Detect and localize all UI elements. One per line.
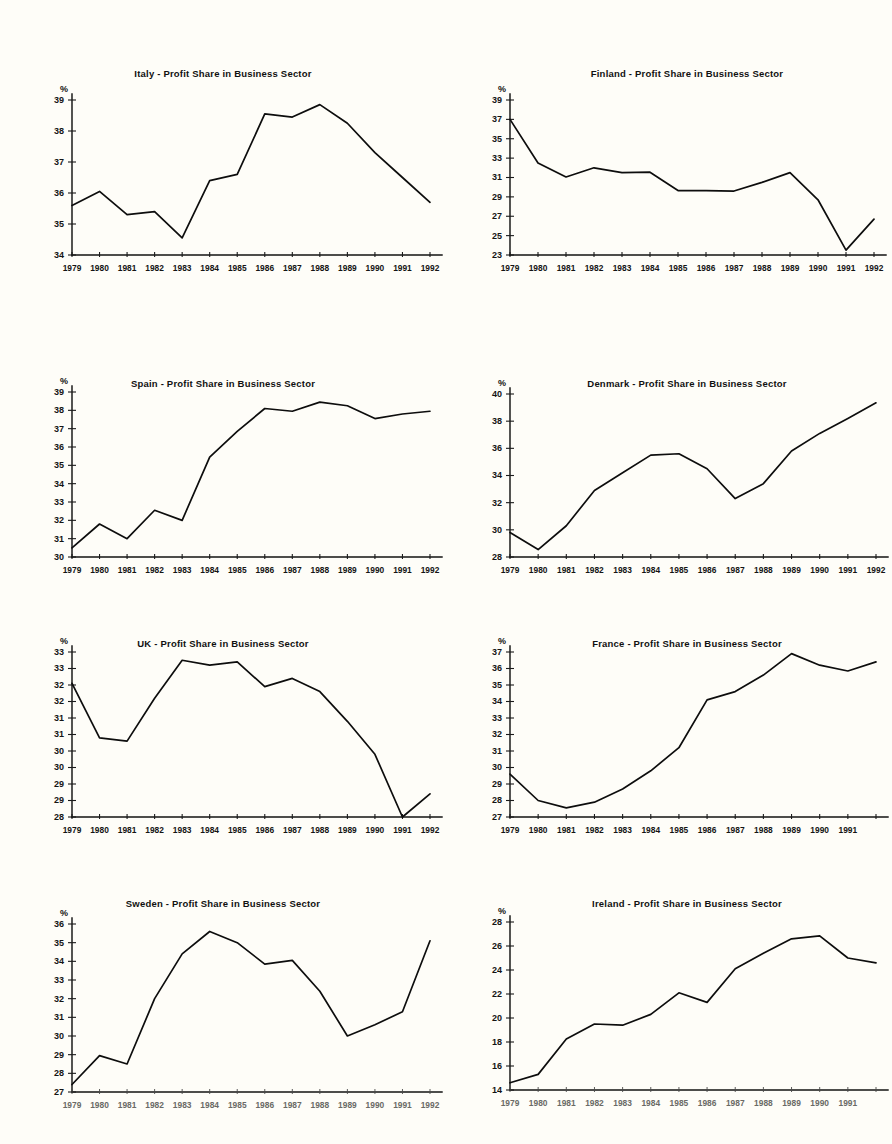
- plot-area-italy: 3435363738391979198019811982198319841985…: [0, 52, 458, 295]
- x-tick-label-ireland-7: 1986: [698, 1098, 717, 1108]
- x-tick-label-france-6: 1985: [670, 825, 689, 835]
- chart-panel-sweden: Sweden - Profit Share in Business Sector…: [0, 882, 446, 1144]
- y-tick-label-uk-2: 29: [54, 779, 64, 789]
- y-tick-label-spain-7: 37: [54, 424, 64, 434]
- plot-area-spain: 3031323334353637383919791980198119821983…: [0, 362, 458, 597]
- x-tick-label-sweden-11: 1990: [366, 1100, 385, 1110]
- y-tick-label-ireland-0: 14: [492, 1085, 502, 1095]
- x-tick-label-italy-12: 1991: [393, 263, 412, 273]
- x-tick-label-spain-13: 1992: [421, 565, 440, 575]
- plot-area-sweden: 2728293031323334353619791980198119821983…: [0, 882, 458, 1132]
- y-tick-label-uk-8: 32: [54, 680, 64, 690]
- y-tick-label-italy-3: 37: [54, 157, 64, 167]
- x-tick-label-denmark-3: 1982: [585, 565, 604, 575]
- y-tick-label-finland-5: 33: [492, 153, 502, 163]
- x-tick-label-spain-5: 1984: [200, 565, 219, 575]
- y-tick-label-spain-8: 38: [54, 405, 64, 415]
- x-tick-label-spain-2: 1981: [118, 565, 137, 575]
- y-tick-label-finland-1: 25: [492, 231, 502, 241]
- y-tick-label-uk-0: 28: [54, 812, 64, 822]
- x-tick-label-spain-11: 1990: [366, 565, 385, 575]
- y-tick-label-italy-1: 35: [54, 219, 64, 229]
- chart-panel-spain: Spain - Profit Share in Business Sector%…: [0, 362, 446, 622]
- x-tick-label-sweden-8: 1987: [283, 1100, 302, 1110]
- chart-panel-uk: UK - Profit Share in Business Sector%282…: [0, 622, 446, 882]
- x-tick-label-uk-7: 1986: [255, 825, 274, 835]
- x-tick-label-finland-3: 1982: [585, 263, 604, 273]
- x-tick-label-ireland-12: 1991: [839, 1098, 858, 1108]
- x-tick-label-uk-5: 1984: [200, 825, 219, 835]
- x-tick-label-denmark-8: 1987: [726, 565, 745, 575]
- series-line-denmark: [510, 403, 876, 550]
- x-tick-label-finland-6: 1985: [669, 263, 688, 273]
- x-tick-label-france-2: 1981: [557, 825, 576, 835]
- x-tick-label-uk-6: 1985: [228, 825, 247, 835]
- x-tick-label-denmark-9: 1988: [754, 565, 773, 575]
- y-tick-label-france-0: 27: [492, 812, 502, 822]
- x-tick-label-uk-4: 1983: [173, 825, 192, 835]
- x-tick-label-uk-13: 1992: [421, 825, 440, 835]
- x-tick-label-italy-9: 1988: [311, 263, 330, 273]
- y-tick-label-denmark-5: 38: [492, 416, 502, 426]
- y-tick-label-uk-7: 32: [54, 696, 64, 706]
- y-tick-label-denmark-1: 30: [492, 525, 502, 535]
- y-tick-label-denmark-2: 32: [492, 498, 502, 508]
- plot-area-uk: 2829293030313132323333197919801981198219…: [0, 622, 458, 857]
- x-tick-label-finland-10: 1989: [781, 263, 800, 273]
- y-tick-label-italy-4: 38: [54, 126, 64, 136]
- x-tick-label-uk-12: 1991: [393, 825, 412, 835]
- x-tick-label-ireland-6: 1985: [670, 1098, 689, 1108]
- x-tick-label-denmark-5: 1984: [641, 565, 660, 575]
- y-tick-label-finland-8: 39: [492, 95, 502, 105]
- y-tick-label-spain-2: 32: [54, 515, 64, 525]
- series-line-finland: [510, 119, 874, 250]
- x-tick-label-uk-8: 1987: [283, 825, 302, 835]
- x-tick-label-denmark-11: 1990: [810, 565, 829, 575]
- x-tick-label-spain-7: 1986: [255, 565, 274, 575]
- x-tick-label-sweden-7: 1986: [255, 1100, 274, 1110]
- chart-panel-denmark: Denmark - Profit Share in Business Secto…: [446, 362, 892, 622]
- y-tick-label-uk-3: 30: [54, 762, 64, 772]
- x-tick-label-sweden-2: 1981: [118, 1100, 137, 1110]
- x-tick-label-italy-8: 1987: [283, 263, 302, 273]
- x-tick-label-france-9: 1988: [754, 825, 773, 835]
- x-tick-label-denmark-12: 1991: [839, 565, 858, 575]
- x-tick-label-spain-12: 1991: [393, 565, 412, 575]
- y-tick-label-uk-9: 33: [54, 663, 64, 673]
- x-tick-label-italy-6: 1985: [228, 263, 247, 273]
- x-tick-label-denmark-1: 1980: [529, 565, 548, 575]
- x-tick-label-ireland-3: 1982: [585, 1098, 604, 1108]
- x-tick-label-france-11: 1990: [810, 825, 829, 835]
- x-tick-label-finland-1: 1980: [529, 263, 548, 273]
- y-tick-label-italy-0: 34: [54, 250, 64, 260]
- x-tick-label-denmark-4: 1983: [613, 565, 632, 575]
- y-tick-label-finland-3: 29: [492, 192, 502, 202]
- x-tick-label-spain-1: 1980: [90, 565, 109, 575]
- x-tick-label-uk-1: 1980: [90, 825, 109, 835]
- y-tick-label-sweden-3: 30: [54, 1031, 64, 1041]
- x-tick-label-spain-8: 1987: [283, 565, 302, 575]
- x-tick-label-finland-2: 1981: [557, 263, 576, 273]
- y-tick-label-sweden-5: 32: [54, 994, 64, 1004]
- x-tick-label-italy-3: 1982: [145, 263, 164, 273]
- y-tick-label-sweden-7: 34: [54, 956, 64, 966]
- y-tick-label-uk-4: 30: [54, 746, 64, 756]
- x-tick-label-finland-13: 1992: [865, 263, 884, 273]
- y-tick-label-finland-2: 27: [492, 211, 502, 221]
- x-tick-label-denmark-10: 1989: [782, 565, 801, 575]
- chart-panel-italy: Italy - Profit Share in Business Sector%…: [0, 52, 446, 362]
- x-tick-label-denmark-0: 1979: [501, 565, 520, 575]
- x-tick-label-france-0: 1979: [501, 825, 520, 835]
- y-tick-label-italy-5: 39: [54, 95, 64, 105]
- x-tick-label-ireland-5: 1984: [641, 1098, 660, 1108]
- x-tick-label-france-7: 1986: [698, 825, 717, 835]
- y-tick-label-france-1: 28: [492, 795, 502, 805]
- x-tick-label-finland-12: 1991: [837, 263, 856, 273]
- chart-panel-ireland: Ireland - Profit Share in Business Secto…: [446, 882, 892, 1144]
- y-tick-label-spain-3: 33: [54, 497, 64, 507]
- y-tick-label-france-4: 31: [492, 746, 502, 756]
- y-tick-label-sweden-6: 33: [54, 975, 64, 985]
- y-tick-label-denmark-4: 36: [492, 443, 502, 453]
- plot-area-france: 2728293031323334353637197919801981198219…: [446, 622, 892, 857]
- y-tick-label-ireland-2: 18: [492, 1037, 502, 1047]
